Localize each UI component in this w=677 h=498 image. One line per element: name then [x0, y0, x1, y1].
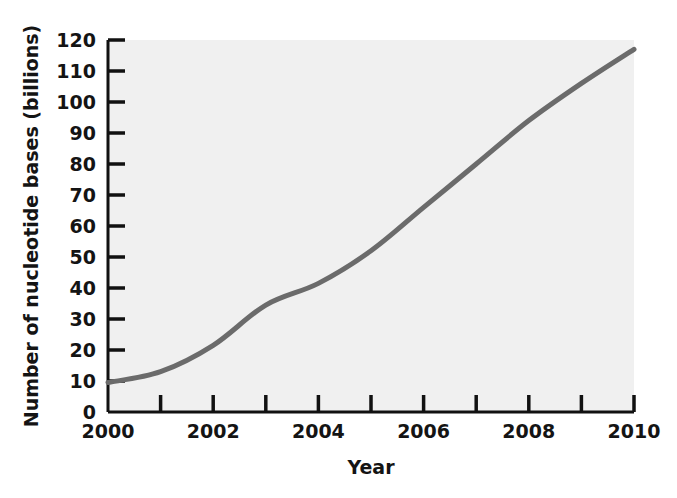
x-axis-tick-label: 2000	[82, 420, 135, 442]
y-axis-tick-label: 50	[70, 246, 96, 268]
y-axis-tick-label: 20	[70, 339, 96, 361]
plot-area-background	[108, 40, 634, 412]
y-axis-tick-label: 0	[83, 401, 96, 423]
line-chart: 0102030405060708090100110120 20002002200…	[0, 0, 677, 498]
y-axis-tick-label: 70	[70, 184, 96, 206]
y-axis-tick-label: 90	[70, 122, 96, 144]
x-axis-tick-label: 2010	[608, 420, 661, 442]
y-axis-tick-label: 10	[70, 370, 96, 392]
x-axis-tick-label: 2004	[292, 420, 345, 442]
y-axis-tick-label: 120	[56, 29, 96, 51]
x-axis-title: Year	[346, 456, 395, 478]
x-axis-tick-label: 2008	[502, 420, 555, 442]
x-axis-tick-label: 2002	[187, 420, 240, 442]
y-axis-tick-label: 80	[70, 153, 96, 175]
y-axis-tick-label: 30	[70, 308, 96, 330]
chart-container: 0102030405060708090100110120 20002002200…	[0, 0, 677, 498]
y-axis-title: Number of nucleotide bases (billions)	[20, 25, 42, 428]
x-axis-tick-label: 2006	[397, 420, 450, 442]
y-axis-tick-labels: 0102030405060708090100110120	[56, 29, 96, 423]
y-axis-tick-label: 40	[70, 277, 96, 299]
y-axis-tick-label: 110	[56, 60, 96, 82]
y-axis-tick-label: 100	[56, 91, 96, 113]
x-axis-tick-labels: 200020022004200620082010	[82, 420, 661, 442]
y-axis-tick-label: 60	[70, 215, 96, 237]
